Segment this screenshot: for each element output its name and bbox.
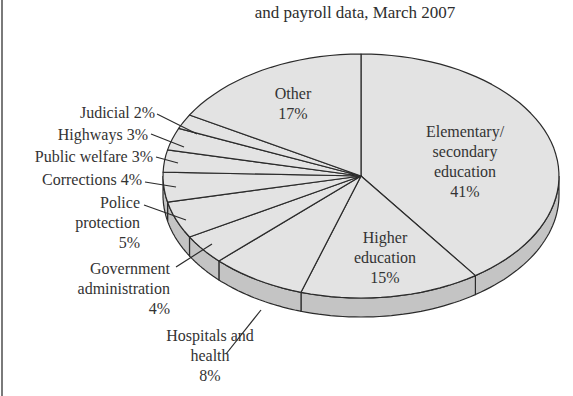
label-police: Police protection 5% <box>60 193 140 253</box>
label-police-line1: Police <box>60 193 140 213</box>
label-higher-ed-value: 15% <box>345 268 425 288</box>
label-judicial: Judicial 2% <box>40 103 155 123</box>
label-gov-admin: Government administration 4% <box>40 259 170 319</box>
label-other-name: Other <box>258 84 328 104</box>
label-higher-ed-line2: education <box>345 248 425 268</box>
label-corrections: Corrections 4% <box>10 170 142 190</box>
label-other: Other 17% <box>258 84 328 124</box>
label-elementary-value: 41% <box>405 182 525 202</box>
label-hospitals-value: 8% <box>150 366 270 386</box>
label-elementary-line2: secondary <box>405 142 525 162</box>
label-public-welfare: Public welfare 3% <box>10 147 153 167</box>
label-gov-admin-line1: Government <box>40 259 170 279</box>
label-police-value: 5% <box>60 233 140 253</box>
label-gov-admin-line2: administration <box>40 279 170 299</box>
label-elementary: Elementary/ secondary education 41% <box>405 122 525 202</box>
label-higher-education: Higher education 15% <box>345 228 425 288</box>
label-higher-ed-line1: Higher <box>345 228 425 248</box>
label-hospitals-line2: health <box>150 346 270 366</box>
label-highways: Highways 3% <box>30 125 148 145</box>
label-police-line2: protection <box>60 213 140 233</box>
label-elementary-line1: Elementary/ <box>405 122 525 142</box>
label-hospitals-line1: Hospitals and <box>150 326 270 346</box>
label-elementary-line3: education <box>405 162 525 182</box>
label-hospitals: Hospitals and health 8% <box>150 326 270 386</box>
label-gov-admin-value: 4% <box>40 299 170 319</box>
label-other-value: 17% <box>258 104 328 124</box>
